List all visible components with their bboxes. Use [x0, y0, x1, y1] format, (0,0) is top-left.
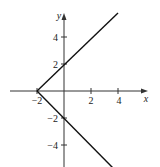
x-tick-label-4: 4 [117, 95, 122, 106]
upper-branch-line [37, 13, 118, 91]
y-tick-label-neg2: −2 [47, 113, 58, 124]
x-tick-label-neg2: −2 [32, 95, 43, 106]
lower-branch-line [37, 91, 113, 167]
y-tick-label-4: 4 [53, 32, 58, 43]
y-axis-arrow-icon [62, 13, 67, 20]
y-tick-label-neg4: −4 [47, 140, 58, 151]
y-tick-label-2: 2 [53, 59, 58, 70]
graph-figure: −2 2 4 x 4 2 −2 −4 y [0, 0, 160, 167]
x-tick-label-2: 2 [89, 95, 94, 106]
x-axis-label: x [143, 93, 149, 104]
y-axis-label: y [56, 10, 62, 21]
graph-canvas: −2 2 4 x 4 2 −2 −4 y [0, 0, 160, 167]
